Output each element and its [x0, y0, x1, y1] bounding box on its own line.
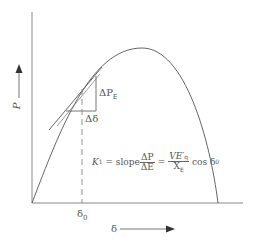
delta0-subscript: 0	[83, 214, 87, 222]
formula-fraction-1: ΔP ΔE	[140, 153, 155, 172]
k1-formula: K1 = slope ΔP ΔE = VE′q XE cos δ0	[92, 152, 219, 173]
power-curve	[32, 48, 218, 203]
x-axis-label: δ	[111, 224, 117, 234]
formula-cos-delta-sub: 0	[215, 159, 219, 165]
delta-p-label: ΔPE	[99, 88, 117, 101]
delta0-tick-label: δ0	[77, 209, 88, 222]
fraction-1-denominator: ΔE	[140, 163, 155, 172]
power-angle-diagram	[0, 0, 254, 245]
p-arrow-head-icon	[16, 64, 23, 73]
delta-p-subscript: E	[113, 93, 117, 101]
y-axis-label: P	[12, 103, 22, 110]
delta-p-text: ΔP	[99, 87, 113, 98]
fraction-2-den-sub: E	[180, 166, 184, 173]
formula-cos-delta: cos δ	[189, 158, 215, 167]
fraction-2-num-text: VE′	[169, 151, 184, 161]
formula-fraction-2: VE′q XE	[168, 152, 189, 173]
formula-equals-2: =	[155, 158, 168, 167]
fraction-2-num-sub: q	[184, 153, 188, 160]
delta-arrow-head-icon	[166, 226, 175, 233]
delta-delta-label: Δδ	[85, 114, 98, 124]
formula-equals-slope: = slope	[103, 158, 140, 167]
fraction-2-denominator: XE	[168, 162, 189, 173]
formula-lhs: K	[92, 158, 99, 167]
